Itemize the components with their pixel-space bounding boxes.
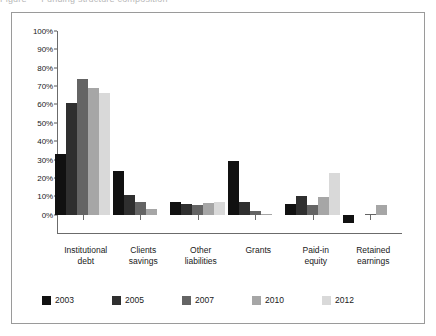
x-axis-label-line: liabilities	[172, 256, 230, 267]
chart-figure-frame: 100%90%80%70%60%50%40%30%20%10%0% Instit…	[11, 12, 425, 324]
y-axis-tick-label: 50%	[37, 118, 53, 127]
bar-paid-in-equity-2012	[329, 173, 340, 214]
x-axis-label-line: debt	[57, 256, 115, 267]
legend-label-2007: 2007	[195, 295, 214, 305]
y-axis-tick-label: 90%	[37, 45, 53, 54]
x-axis-label-line: savings	[115, 256, 173, 267]
plot-area: 100%90%80%70%60%50%40%30%20%10%0%	[57, 31, 402, 233]
x-axis-label-paid-in-equity: Paid-inequity	[287, 245, 345, 267]
x-axis-label-line: Other	[172, 245, 230, 256]
y-axis-tick-label: 40%	[37, 137, 53, 146]
legend-label-2003: 2003	[55, 295, 74, 305]
x-axis-tick	[255, 215, 256, 220]
bar-retained-earnings-2003	[343, 215, 354, 223]
x-axis-label-line: equity	[287, 256, 345, 267]
legend-label-2010: 2010	[265, 295, 284, 305]
bar-institutional-debt-2005	[66, 103, 77, 215]
x-axis-label-retained-earnings: Retainedearnings	[345, 245, 403, 267]
legend-label-2005: 2005	[125, 295, 144, 305]
bar-clients-savings-2007	[135, 202, 146, 215]
bar-other-liabilities-2003	[170, 202, 181, 215]
x-axis-label-line: earnings	[345, 256, 403, 267]
y-axis-tick-label: 0%	[42, 210, 53, 219]
bar-institutional-debt-2012	[99, 93, 110, 214]
x-axis-line	[57, 233, 402, 234]
bar-group	[55, 31, 110, 233]
x-axis-label-line: Clients	[115, 245, 173, 256]
legend-item-2005[interactable]: 2005	[112, 294, 144, 306]
legend-item-2003[interactable]: 2003	[42, 294, 74, 306]
legend-swatch-2003	[42, 296, 51, 305]
y-axis-tick-label: 80%	[37, 63, 53, 72]
x-axis-label-line: Retained	[345, 245, 403, 256]
bar-paid-in-equity-2007	[307, 205, 318, 214]
x-axis-tick	[370, 215, 371, 220]
x-axis-tick	[83, 215, 84, 220]
legend-swatch-2007	[182, 296, 191, 305]
x-axis-label-line: Paid-in	[287, 245, 345, 256]
caption-sliver: Figure — Funding structure composition	[0, 0, 436, 9]
bar-clients-savings-2005	[124, 195, 135, 214]
bar-other-liabilities-2010	[203, 203, 214, 215]
bar-other-liabilities-2012	[214, 202, 225, 215]
bar-grants-2005	[239, 202, 250, 215]
x-axis-tick	[313, 215, 314, 220]
chart-legend: 20032005200720102012	[42, 294, 412, 310]
legend-swatch-2010	[252, 296, 261, 305]
legend-swatch-2012	[322, 296, 331, 305]
bar-institutional-debt-2010	[88, 88, 99, 215]
bar-paid-in-equity-2005	[296, 196, 307, 214]
y-axis-tick-label: 60%	[37, 100, 53, 109]
x-axis-label-line: Grants	[230, 245, 288, 256]
bar-paid-in-equity-2010	[318, 197, 329, 214]
y-axis-tick-label: 30%	[37, 155, 53, 164]
bar-retained-earnings-2010	[376, 205, 387, 215]
legend-swatch-2005	[112, 296, 121, 305]
legend-item-2010[interactable]: 2010	[252, 294, 284, 306]
caption-sliver-text: Figure — Funding structure composition	[0, 0, 168, 4]
y-axis-tick-label: 100%	[33, 27, 53, 36]
bar-other-liabilities-2005	[181, 204, 192, 215]
y-axis-tick-label: 10%	[37, 192, 53, 201]
x-axis-tick	[198, 215, 199, 220]
legend-item-2012[interactable]: 2012	[322, 294, 354, 306]
x-axis-tick	[140, 215, 141, 220]
bar-group	[228, 31, 283, 233]
bar-other-liabilities-2007	[192, 205, 203, 215]
legend-item-2007[interactable]: 2007	[182, 294, 214, 306]
bars-layer	[58, 31, 402, 233]
bar-clients-savings-2003	[113, 171, 124, 215]
bar-paid-in-equity-2003	[285, 204, 296, 215]
bar-grants-2010	[261, 214, 272, 215]
x-axis-label-clients-savings: Clientssavings	[115, 245, 173, 267]
x-axis-label-other-liabilities: Otherliabilities	[172, 245, 230, 267]
legend-label-2012: 2012	[335, 295, 354, 305]
x-axis-label-institutional-debt: Institutionaldebt	[57, 245, 115, 267]
bar-group	[170, 31, 225, 233]
bar-clients-savings-2010	[146, 209, 157, 215]
y-axis-tick-label: 20%	[37, 173, 53, 182]
bar-institutional-debt-2007	[77, 79, 88, 215]
bar-group	[113, 31, 168, 233]
x-axis-label-grants: Grants	[230, 245, 288, 256]
x-axis-label-line: Institutional	[57, 245, 115, 256]
bar-grants-2003	[228, 161, 239, 214]
bar-institutional-debt-2003	[55, 154, 66, 215]
bar-group	[285, 31, 340, 233]
x-axis-category-labels: InstitutionaldebtClientssavingsOtherliab…	[57, 245, 402, 275]
y-axis-tick-label: 70%	[37, 82, 53, 91]
bar-group	[343, 31, 398, 233]
